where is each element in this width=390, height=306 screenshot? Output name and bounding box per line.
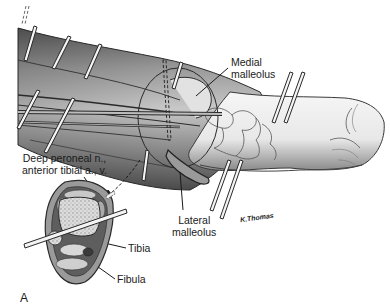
label-line: Medial <box>231 56 275 68</box>
label-line: malleolus <box>231 68 275 80</box>
ankle-cross-section <box>24 180 127 283</box>
label-fibula: Fibula <box>117 273 146 285</box>
panel-letter: A <box>20 292 28 304</box>
label-line: Lateral <box>172 214 216 226</box>
label-deep-peroneal-nerve: Deep peroneal n., anterior tibial a., v. <box>22 152 107 176</box>
label-tibia: Tibia <box>128 242 150 254</box>
label-medial-malleolus: Medial malleolus <box>231 56 275 80</box>
label-line: Deep peroneal n., <box>22 152 107 164</box>
ankle-fixation-illustration: Medial malleolus Deep peroneal n., anter… <box>0 0 390 306</box>
label-line: anterior tibial a., v. <box>22 164 107 176</box>
label-lateral-malleolus: Lateral malleolus <box>172 214 216 238</box>
label-line: malleolus <box>172 226 216 238</box>
